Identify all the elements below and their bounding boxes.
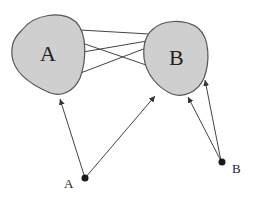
point-b	[219, 159, 226, 166]
link-1	[80, 30, 149, 34]
arrow-pointB-to-regionB-right	[205, 80, 221, 161]
arrow-pointB-to-regionB-bottom	[188, 97, 221, 161]
point-b-label: B	[232, 161, 241, 176]
region-a-label: A	[40, 41, 56, 66]
arrow-pointA-to-regionB	[85, 96, 155, 178]
region-b: B	[144, 21, 208, 95]
region-a: A	[12, 15, 85, 94]
arrow-pointA-to-regionA	[60, 99, 85, 178]
point-a	[82, 175, 89, 182]
point-a-label: A	[64, 176, 74, 191]
region-links	[78, 30, 149, 74]
region-b-label: B	[169, 45, 184, 70]
diagram-canvas: A B A B	[0, 0, 254, 197]
